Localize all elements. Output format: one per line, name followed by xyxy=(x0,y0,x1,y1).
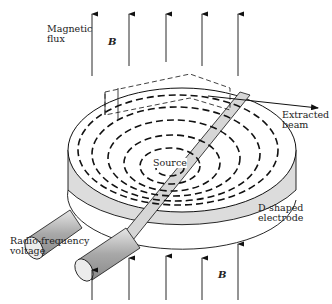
label-source: Source xyxy=(153,158,187,168)
label-d-shaped-electrode: D-shaped electrode xyxy=(258,203,303,223)
label-b-top: B xyxy=(108,37,116,47)
label-text: electrode xyxy=(258,213,303,223)
label-text: flux xyxy=(47,34,92,44)
cyclotron-drawing xyxy=(0,0,332,304)
label-text: voltage xyxy=(10,246,89,256)
cyclotron-diagram: Magnetic flux B Extracted beam Source D-… xyxy=(0,0,332,304)
label-b-bottom: B xyxy=(218,270,226,280)
label-magnetic-flux: Magnetic flux xyxy=(47,24,92,44)
label-text: beam xyxy=(282,120,329,130)
label-radio-frequency-voltage: Radio-frequency voltage xyxy=(10,236,89,256)
label-extracted-beam: Extracted beam xyxy=(282,110,329,130)
